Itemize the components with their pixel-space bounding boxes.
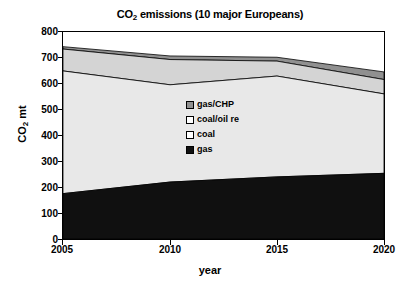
x-tick-label: 2020 <box>354 244 414 255</box>
legend-swatch-coal-icon <box>186 131 194 139</box>
legend-label-coal-oil-re: coal/oil re <box>197 115 239 124</box>
y-tick-label: 100 <box>28 209 58 219</box>
x-tick-label: 2010 <box>140 244 200 255</box>
x-tick-label: 2015 <box>247 244 307 255</box>
y-tick-label: 400 <box>28 131 58 141</box>
legend-label-coal: coal <box>197 130 215 139</box>
legend-swatch-gas-icon <box>186 146 194 154</box>
chart-container: CO2 emissions (10 major Europeans) CO2 m… <box>0 0 420 286</box>
y-tick-label: 700 <box>28 53 58 63</box>
chart-title-subscript: 2 <box>133 13 137 22</box>
legend-swatch-gas-chp-icon <box>186 101 194 109</box>
y-tick-label: 800 <box>28 27 58 37</box>
x-tick-label: 2005 <box>32 244 92 255</box>
legend-item-coal-oil-re: coal/oil re <box>186 113 239 126</box>
x-axis-label: year <box>0 264 420 276</box>
chart-title: CO2 emissions (10 major Europeans) <box>0 8 420 20</box>
legend-label-gas: gas <box>197 145 213 154</box>
legend-item-gas-chp: gas/CHP <box>186 98 239 111</box>
legend-swatch-coal-oil-re-icon <box>186 116 194 124</box>
y-tick-label: 600 <box>28 79 58 89</box>
y-tick-label: 300 <box>28 157 58 167</box>
legend-item-coal: coal <box>186 128 239 141</box>
chart-title-main: CO <box>117 8 133 20</box>
y-tick-label: 500 <box>28 105 58 115</box>
chart-legend: gas/CHP coal/oil re coal gas <box>186 98 239 158</box>
chart-title-rest: emissions (10 major Europeans) <box>137 8 303 20</box>
legend-label-gas-chp: gas/CHP <box>197 100 234 109</box>
y-tick-label: 200 <box>28 183 58 193</box>
x-axis-tick-labels: 2005 2010 2015 2020 <box>0 244 420 260</box>
legend-item-gas: gas <box>186 143 239 156</box>
